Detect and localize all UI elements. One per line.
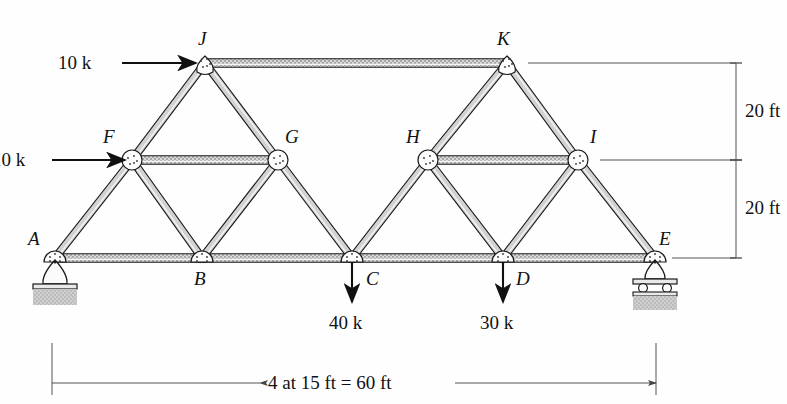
truss-member-DI — [498, 155, 582, 262]
gusset-plate-G — [268, 150, 288, 170]
truss-member-HI — [425, 156, 581, 164]
joint-label-F: F — [103, 126, 115, 148]
truss-member-IK — [502, 58, 582, 164]
truss-member-JK — [202, 59, 510, 67]
joint-label-G: G — [285, 126, 299, 148]
truss-member-HD — [423, 155, 507, 262]
truss-supports — [33, 260, 677, 310]
truss-member-AF — [50, 155, 136, 262]
truss-member-FB — [127, 155, 206, 262]
dimension-label-dim-lower: 20 ft — [745, 197, 780, 219]
truss-joints — [44, 56, 666, 262]
truss-member-AB — [52, 254, 205, 262]
dimension-lines — [52, 63, 742, 395]
load-label-J: 10 k — [58, 52, 91, 74]
truss-member-IE — [573, 155, 659, 262]
truss-member-GJ — [200, 58, 282, 164]
truss-member-HK — [423, 58, 511, 164]
truss-member-CD — [349, 254, 506, 262]
dimension-label-span: 4 at 15 ft = 60 ft — [268, 372, 392, 394]
truss-drawing — [0, 0, 787, 404]
support-roller-E — [633, 260, 677, 310]
truss-member-BG — [197, 155, 282, 262]
load-arrows — [52, 63, 503, 302]
truss-member-FJ — [127, 58, 209, 164]
load-label-C: 40 k — [329, 312, 362, 334]
joint-label-B: B — [194, 268, 206, 290]
load-label-D: 30 k — [480, 312, 513, 334]
truss-figure: ABCDEFGHIJK 10 k10 k40 k30 k 4 at 15 ft … — [0, 0, 787, 404]
joint-label-C: C — [366, 268, 379, 290]
truss-member-FG — [129, 156, 281, 164]
joint-label-D: D — [516, 268, 530, 290]
joint-label-A: A — [28, 228, 40, 250]
joint-label-K: K — [497, 28, 510, 50]
gusset-plate-H — [418, 150, 438, 170]
load-label-F: 10 k — [0, 149, 25, 171]
gusset-plate-I — [568, 150, 588, 170]
joint-label-H: H — [406, 126, 420, 148]
joint-label-E: E — [659, 228, 671, 250]
truss-member-BC — [199, 254, 355, 262]
support-pin-A — [33, 260, 77, 305]
truss-member-DE — [500, 254, 658, 262]
truss-member-CH — [347, 155, 432, 262]
dimension-label-dim-upper: 20 ft — [745, 100, 780, 122]
truss-member-GC — [273, 155, 356, 262]
joint-label-J: J — [198, 28, 206, 50]
joint-label-I: I — [590, 126, 596, 148]
